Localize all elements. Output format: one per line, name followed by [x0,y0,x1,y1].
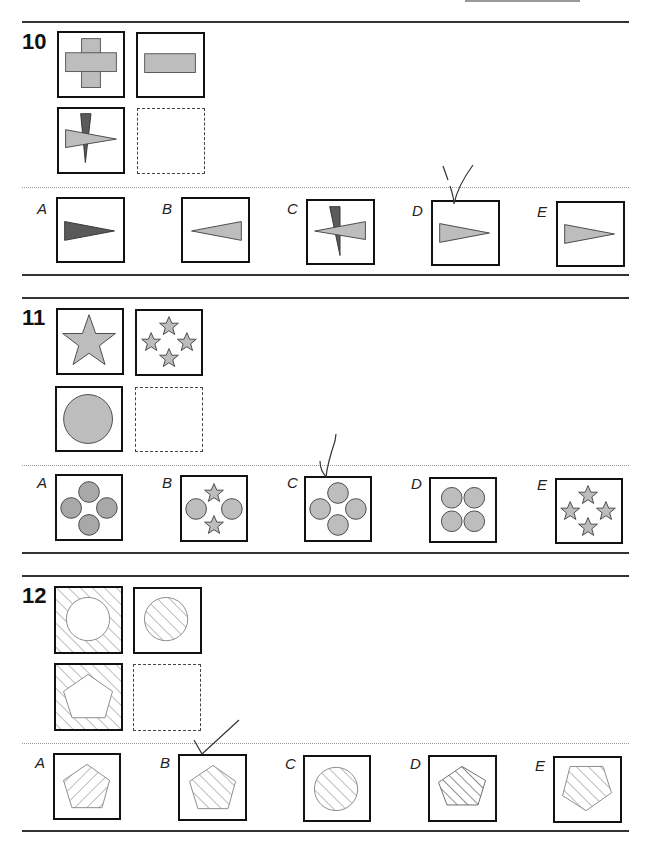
q12-option-c-label: C [285,755,296,772]
four-stars-icon [557,480,621,542]
q10-number: 10 [22,29,46,55]
light-triangle-right-icon [558,203,623,265]
q11-top-rule [22,297,629,299]
q12-option-e[interactable] [553,756,622,823]
q10-option-b[interactable] [181,197,250,263]
q11-option-e-label: E [537,476,547,493]
q10-top-rule [22,21,629,23]
q10-option-d[interactable] [431,200,500,266]
q11-checkmark-icon [315,433,345,478]
hatched-pentagon-icon [180,756,245,819]
q12-option-c[interactable] [303,755,371,822]
light-triangle-right-icon [433,202,498,264]
four-circles-diamond-icon [57,476,121,539]
q12-option-a[interactable] [53,753,121,820]
q11-option-b-label: B [162,474,172,491]
q10-grid-cell-3 [57,107,125,174]
crossed-triangles-left-icon [308,201,373,263]
q10-option-a-label: A [37,200,47,217]
hatched-circle-icon [135,589,200,652]
q11-option-d[interactable] [429,477,497,543]
q10-answer-placeholder[interactable] [137,108,205,174]
q12-option-d-label: D [410,755,421,772]
q11-option-c[interactable] [304,476,372,542]
bar-shape-icon [138,34,203,96]
q11-grid-cell-3 [55,386,123,452]
q12-option-a-label: A [35,754,45,771]
pentagon-reverse-hatch-icon [55,755,119,818]
q11-answer-placeholder[interactable] [135,387,203,452]
q10-grid-cell-1 [57,31,125,98]
q10-checkmark-icon [440,160,480,205]
hatched-square-with-circle-icon [56,588,121,652]
q12-answer-placeholder[interactable] [133,664,201,731]
q10-option-b-label: B [162,200,172,217]
dark-triangle-right-icon [58,199,123,261]
inverted-hatched-pentagon-icon [555,758,620,821]
q11-grid-cell-1 [56,308,124,375]
q10-option-a[interactable] [56,197,125,263]
q12-number: 12 [22,583,46,609]
dense-hatched-pentagon-icon [430,757,495,820]
q12-option-e-label: E [535,757,545,774]
light-triangle-left-icon [183,199,248,261]
q11-option-a-label: A [37,474,47,491]
hatched-circle-icon [305,757,369,820]
q11-option-e[interactable] [555,478,623,544]
q11-bottom-rule [22,552,629,554]
q12-divider [22,743,629,744]
q11-grid-cell-2 [135,309,203,376]
crossed-triangles-icon [59,109,123,172]
q12-bottom-rule [22,830,629,832]
q12-grid-cell-1 [54,586,123,654]
q10-option-e[interactable] [556,201,625,267]
q12-option-b[interactable] [178,754,247,821]
four-circles-grid-icon [431,479,495,541]
q10-bottom-rule [22,274,629,276]
q10-divider [22,187,629,188]
large-circle-icon [57,388,121,450]
q10-option-d-label: D [412,202,423,219]
q10-grid-cell-2 [136,32,205,98]
q10-option-c[interactable] [306,199,375,265]
four-stars-icon [137,311,201,374]
circles-and-stars-icon [182,477,246,540]
q12-grid-cell-2 [133,587,202,654]
q12-top-rule [22,575,629,577]
q12-grid-cell-3 [54,663,123,731]
q11-option-b[interactable] [180,475,248,542]
plus-shape-icon [59,33,123,96]
q12-checkmark-icon [192,718,242,758]
q12-option-d[interactable] [428,755,497,822]
q10-option-c-label: C [287,200,298,217]
top-stub-rule [465,0,580,2]
q11-number: 11 [22,305,45,331]
q11-option-c-label: C [287,474,298,491]
q11-option-a[interactable] [55,474,123,541]
hatched-square-with-pentagon-icon [56,665,121,729]
large-star-icon [58,310,122,373]
q11-option-d-label: D [411,475,422,492]
q12-option-b-label: B [160,754,170,771]
q10-option-e-label: E [537,203,547,220]
four-circles-diamond-icon [306,478,370,540]
